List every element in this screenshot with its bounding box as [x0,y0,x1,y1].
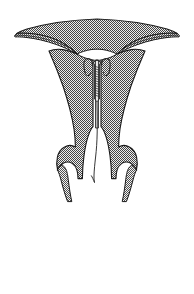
uterus-iud-illustration [0,0,194,294]
figure-root: Uterus with intrauterine device (IUD) in… [0,0,194,294]
